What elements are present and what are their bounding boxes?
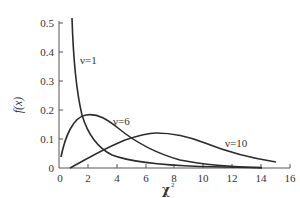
y-tick-label: 0.3 [40,75,54,87]
annotation-nu-6: ν=6 [113,115,130,127]
axes [59,21,290,168]
y-tick-label: 0 [49,162,55,174]
x-axis-title: χ 2 [162,181,175,197]
annotation-nu-10: ν=10 [225,137,248,149]
x-tick-label: 10 [198,172,210,184]
x-tick-label: 4 [114,172,120,184]
annotation-nu-1: ν=1 [80,54,97,66]
x-tick-label: 14 [256,172,268,184]
y-tick-labels: 0.5 0.4 0.3 0.2 0.1 0 [40,17,54,174]
x-tick-label: 16 [285,172,297,184]
y-tick-label: 0.1 [40,133,54,145]
x-tick-label: 2 [85,172,91,184]
svg-text:2: 2 [171,181,175,189]
svg-text:χ: χ [162,183,170,197]
y-tick-label: 0.5 [40,17,54,29]
y-tick-label: 0.2 [40,104,54,116]
y-axis-title: f(x) [11,97,25,114]
x-tick-label: 6 [143,172,149,184]
chi-square-chart: 0.5 0.4 0.3 0.2 0.1 0 0 2 4 6 8 10 12 14… [0,0,300,198]
x-tick-labels: 0 2 4 6 8 10 12 14 16 [57,172,296,184]
x-tick-label: 12 [227,172,238,184]
x-tick-label: 0 [57,172,63,184]
y-tick-label: 0.4 [40,46,54,58]
